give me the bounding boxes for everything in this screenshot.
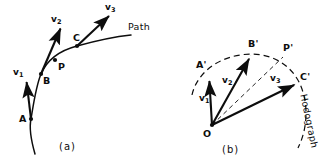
caption-panel-a: (a) xyxy=(59,142,76,152)
label-point-b-prime: B' xyxy=(248,39,259,49)
point-c-dot xyxy=(75,44,79,48)
path-curve xyxy=(30,35,131,154)
label-point-c-prime: C' xyxy=(300,72,310,82)
point-p-dot xyxy=(53,58,57,62)
label-point-a: A xyxy=(19,114,27,124)
vector-v1-a xyxy=(27,82,31,119)
label-point-c: C xyxy=(73,33,80,43)
chord-o-p-prime xyxy=(212,57,283,125)
label-point-b: B xyxy=(43,76,50,86)
origin-o-dot xyxy=(210,123,214,127)
label-v3-panel-b: v3 xyxy=(270,74,281,83)
point-a-dot xyxy=(29,117,33,121)
label-origin-o: O xyxy=(203,129,211,139)
label-v2-panel-b: v2 xyxy=(222,76,233,85)
label-point-p-prime: P' xyxy=(283,43,293,53)
label-point-a-prime: A' xyxy=(196,60,207,70)
label-v1-panel-a: v1 xyxy=(13,68,24,77)
label-v2-panel-a: v2 xyxy=(51,15,62,24)
label-v1-panel-b: v1 xyxy=(199,94,210,103)
figure-container: v1 v2 v3 A B P C Path (a) A' B' P' C' O … xyxy=(0,0,322,166)
label-path: Path xyxy=(128,22,150,32)
caption-panel-b: (b) xyxy=(222,145,239,155)
label-point-p: P xyxy=(58,62,65,72)
label-v3-panel-a: v3 xyxy=(105,3,116,12)
